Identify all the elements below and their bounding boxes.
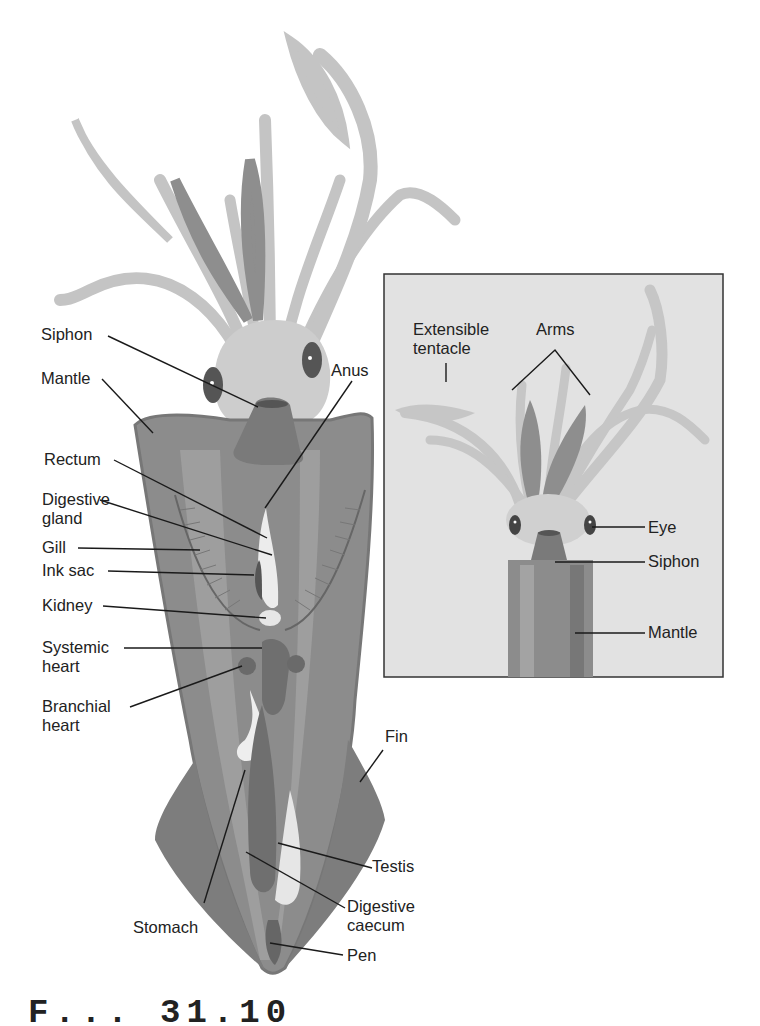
label-ink-sac: Ink sac bbox=[42, 561, 94, 580]
figure-caption-cropped: F... 31.10 bbox=[28, 996, 292, 1026]
label-branchial-heart-line2: heart bbox=[42, 716, 111, 735]
label-gill: Gill bbox=[42, 538, 66, 557]
label-pen: Pen bbox=[347, 946, 376, 965]
inset-label-extensible-tentacle-line1: Extensible bbox=[413, 320, 489, 339]
label-digestive-gland-line1: Digestive bbox=[42, 490, 110, 509]
inset-label-siphon: Siphon bbox=[648, 552, 699, 571]
inset-label-extensible-tentacle-line2: tentacle bbox=[413, 339, 489, 358]
label-systemic-heart-line1: Systemic bbox=[42, 638, 109, 657]
label-testis: Testis bbox=[372, 857, 414, 876]
label-digestive-caecum: Digestive caecum bbox=[347, 897, 415, 935]
label-systemic-heart-line2: heart bbox=[42, 657, 109, 676]
label-digestive-gland-line2: gland bbox=[42, 509, 110, 528]
label-systemic-heart: Systemic heart bbox=[42, 638, 109, 676]
label-branchial-heart-line1: Branchial bbox=[42, 697, 111, 716]
inset-label-arms: Arms bbox=[536, 320, 575, 339]
label-digestive-gland: Digestive gland bbox=[42, 490, 110, 528]
label-stomach: Stomach bbox=[133, 918, 198, 937]
label-mantle: Mantle bbox=[41, 369, 91, 388]
label-kidney: Kidney bbox=[42, 596, 92, 615]
label-siphon: Siphon bbox=[41, 325, 92, 344]
label-branchial-heart: Branchial heart bbox=[42, 697, 111, 735]
inset-label-eye: Eye bbox=[648, 518, 676, 537]
label-digestive-caecum-line1: Digestive bbox=[347, 897, 415, 916]
label-digestive-caecum-line2: caecum bbox=[347, 916, 415, 935]
label-rectum: Rectum bbox=[44, 450, 101, 469]
inset-label-mantle: Mantle bbox=[648, 623, 698, 642]
label-anus: Anus bbox=[331, 361, 369, 380]
label-fin: Fin bbox=[385, 727, 408, 746]
inset-label-extensible-tentacle: Extensible tentacle bbox=[413, 320, 489, 358]
